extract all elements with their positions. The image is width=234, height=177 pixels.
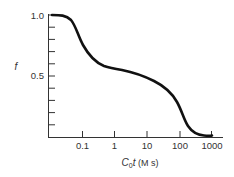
x-tick-label-10: 10: [142, 140, 153, 151]
y-axis-title: f: [15, 61, 19, 72]
y-tick-label-top: 1.0: [31, 10, 44, 21]
y-tick-label-mid: 0.5: [31, 70, 44, 81]
x-tick-label-1: 1: [112, 140, 117, 151]
x-tick-label-0-1: 0.1: [76, 140, 89, 151]
x-tick-label-1000: 1000: [201, 140, 222, 151]
y-ticks: [48, 15, 55, 125]
chart: 1.0 0.5 f 0.1 1 10 100 1000 C0t (M s): [0, 0, 234, 177]
curve-f: [52, 15, 212, 136]
x-tick-label-100: 100: [172, 140, 188, 151]
x-axis-title-units: (M s): [135, 158, 158, 168]
x-axis-title: C0t (M s): [122, 157, 159, 169]
axes: [48, 14, 223, 138]
